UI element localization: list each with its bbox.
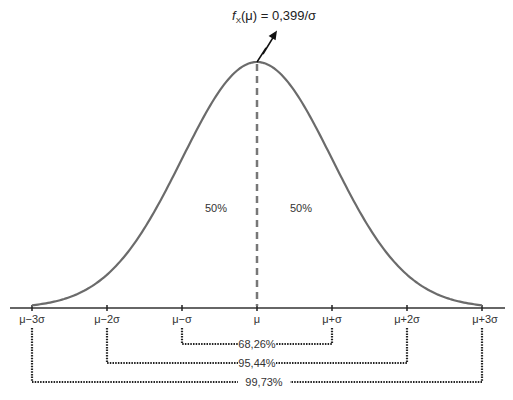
svg-text:μ−2σ: μ−2σ — [94, 313, 120, 325]
svg-text:μ+3σ: μ+3σ — [472, 313, 498, 325]
interval-label-3sigma: 99,73% — [245, 376, 283, 388]
svg-text:μ−σ: μ−σ — [172, 313, 192, 325]
svg-text:μ+σ: μ+σ — [322, 313, 342, 325]
normal-distribution-diagram: fX(μ) = 0,399/σ 50% 50% μ−3σ μ−2σ μ−σ μ … — [0, 0, 513, 400]
svg-text:μ+2σ: μ+2σ — [394, 313, 420, 325]
interval-label-1sigma: 68,26% — [238, 338, 276, 350]
svg-text:μ−3σ: μ−3σ — [19, 313, 45, 325]
tick-labels: μ−3σ μ−2σ μ−σ μ μ+σ μ+2σ μ+3σ — [19, 313, 498, 325]
peak-annotation: fX(μ) = 0,399/σ — [232, 8, 316, 25]
interval-brackets — [32, 328, 482, 382]
svg-text:μ: μ — [254, 313, 260, 325]
left-half-label: 50% — [205, 202, 227, 214]
interval-label-2sigma: 95,44% — [238, 357, 276, 369]
peak-arrow-icon — [257, 32, 276, 62]
right-half-label: 50% — [290, 202, 312, 214]
